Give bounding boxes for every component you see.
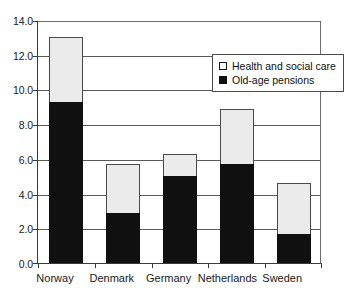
x-tick-1: [95, 263, 96, 268]
y-tick-14: [33, 21, 38, 22]
y-tick-6: [33, 160, 38, 161]
y-axis-label-8: 8.0: [0, 120, 33, 131]
bar-segment-health-netherlands[interactable]: [220, 109, 254, 165]
y-axis-label-10: 10.0: [0, 85, 33, 96]
legend-item-health[interactable]: Health and social care: [219, 59, 336, 73]
y-axis-label-12: 12.0: [0, 51, 33, 62]
gridline-14: [38, 21, 320, 22]
bar-segment-health-denmark[interactable]: [106, 164, 140, 213]
x-tick-3: [208, 263, 209, 268]
y-axis-label-4: 4.0: [0, 190, 33, 201]
bar-segment-pension-netherlands[interactable]: [220, 164, 254, 263]
y-axis-label-14: 14.0: [0, 16, 33, 27]
legend-label-health: Health and social care: [232, 61, 336, 72]
x-axis-label-sweden: Sweden: [247, 272, 317, 284]
plot-area: Health and social care Old-age pensions: [37, 21, 321, 264]
bar-segment-pension-sweden[interactable]: [277, 234, 311, 264]
y-axis-label-6: 6.0: [0, 155, 33, 166]
y-tick-4: [33, 195, 38, 196]
y-tick-8: [33, 125, 38, 126]
y-axis-label-0: 0.0: [0, 259, 33, 270]
y-tick-10: [33, 90, 38, 91]
legend-item-pension[interactable]: Old-age pensions: [219, 73, 336, 87]
bar-segment-health-sweden[interactable]: [277, 183, 311, 233]
legend-swatch-pension-icon: [219, 76, 227, 84]
x-tick-0: [38, 263, 39, 268]
x-tick-5: [321, 263, 322, 268]
legend-label-pension: Old-age pensions: [232, 75, 314, 86]
bar-segment-pension-denmark[interactable]: [106, 213, 140, 263]
x-tick-2: [152, 263, 153, 268]
x-tick-4: [265, 263, 266, 268]
y-tick-12: [33, 56, 38, 57]
y-tick-2: [33, 229, 38, 230]
legend-swatch-health-icon: [219, 62, 227, 70]
chart-legend[interactable]: Health and social care Old-age pensions: [212, 54, 344, 92]
bar-segment-pension-norway[interactable]: [49, 102, 83, 263]
bar-segment-health-germany[interactable]: [163, 154, 197, 177]
y-axis-label-2: 2.0: [0, 224, 33, 235]
bar-segment-pension-germany[interactable]: [163, 176, 197, 263]
bar-segment-health-norway[interactable]: [49, 37, 83, 101]
